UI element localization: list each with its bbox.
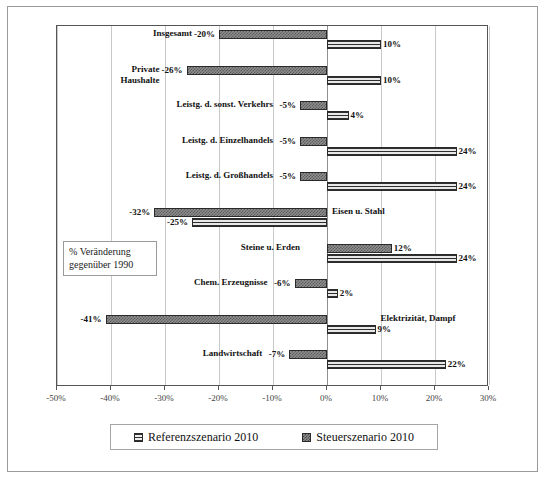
x-tick-mark--40 [110,386,111,390]
value-label-referenzszenario-5: -25% [0,218,188,227]
gridline--20 [219,26,220,385]
value-label-referenzszenario-7: 2% [340,289,354,298]
x-tick-label--20: -20% [193,393,243,403]
bar-referenzszenario-5 [192,218,327,227]
x-tick-label-30: 30% [463,393,513,403]
value-label-referenzszenario-3: 24% [459,147,477,156]
chart-figure: -20%10%Insgesamt-26%10%Private Haushalte… [0,0,546,480]
x-tick-label--30: -30% [139,393,189,403]
x-tick-mark-10 [380,386,381,390]
legend-entry-1[interactable]: Steuerszenario 2010 [302,430,414,445]
bar-referenzszenario-9 [327,360,446,369]
legend-swatch-referenzszenario-icon [134,433,143,442]
x-tick-mark--10 [272,386,273,390]
bar-referenzszenario-1 [327,76,381,85]
x-tick-mark-0 [326,386,327,390]
legend-entry-0[interactable]: Referenzszenario 2010 [134,430,258,445]
bar-referenzszenario-6 [327,254,457,263]
bar-steuerszenario-3 [300,137,327,146]
category-label-5: Eisen u. Stahl [332,206,385,217]
x-tick-label--40: -40% [85,393,135,403]
value-label-steuerszenario-8: -41% [0,315,102,324]
value-label-referenzszenario-0: 10% [383,40,401,49]
bar-steuerszenario-8 [106,315,327,324]
x-tick-mark-20 [434,386,435,390]
x-tick-label-0: 0% [301,393,351,403]
legend-swatch-steuerszenario-icon [302,433,311,442]
value-label-referenzszenario-1: 10% [383,76,401,85]
value-label-referenzszenario-8: 9% [378,325,392,334]
bar-steuerszenario-0 [219,30,327,39]
gridline-20 [435,26,436,385]
category-label-4: Leistg. d. Großhandels [0,170,273,181]
bar-referenzszenario-2 [327,111,349,120]
bar-referenzszenario-8 [327,325,376,334]
value-label-referenzszenario-2: 4% [351,111,365,120]
bar-steuerszenario-6 [327,244,392,253]
bar-referenzszenario-0 [327,40,381,49]
bar-steuerszenario-2 [300,101,327,110]
bar-referenzszenario-3 [327,147,457,156]
value-label-steuerszenario-6: 12% [394,244,412,253]
legend-label-0: Referenzszenario 2010 [148,430,258,445]
bar-steuerszenario-5 [154,208,327,217]
x-tick-label-20: 20% [409,393,459,403]
value-label-referenzszenario-6: 24% [459,254,477,263]
chart-legend: Referenzszenario 2010Steuerszenario 2010 [110,424,438,450]
x-tick-label--50: -50% [31,393,81,403]
category-label-3: Leistg. d. Einzelhandels [0,135,273,146]
bar-steuerszenario-4 [300,172,327,181]
bar-referenzszenario-7 [327,289,338,298]
x-tick-label--10: -10% [247,393,297,403]
category-label-9: Landwirtschaft [0,348,262,359]
category-label-7: Chem. Erzeugnisse [0,277,268,288]
gridline-30 [489,26,490,385]
legend-label-1: Steuerszenario 2010 [316,430,414,445]
category-label-2: Leistg. d. sonst. Verkehrs [0,99,273,110]
x-tick-label-10: 10% [355,393,405,403]
value-label-referenzszenario-9: 22% [448,360,466,369]
bar-steuerszenario-7 [295,279,327,288]
bar-referenzszenario-4 [327,182,457,191]
category-label-0: Insgesamt [0,28,192,39]
gridline--30 [165,26,166,385]
x-tick-mark--30 [164,386,165,390]
gridline--10 [273,26,274,385]
category-label-8: Elektrizität, Dampf [381,313,456,324]
category-label-1: Private Haushalte [0,64,160,86]
value-label-referenzszenario-4: 24% [459,182,477,191]
x-tick-mark--50 [56,386,57,390]
value-label-steuerszenario-5: -32% [0,208,150,217]
x-tick-mark--20 [218,386,219,390]
annotation-box: % Veränderung gegenüber 1990 [63,241,157,276]
x-tick-mark-30 [488,386,489,390]
bar-steuerszenario-1 [187,66,327,75]
bar-steuerszenario-9 [289,350,327,359]
